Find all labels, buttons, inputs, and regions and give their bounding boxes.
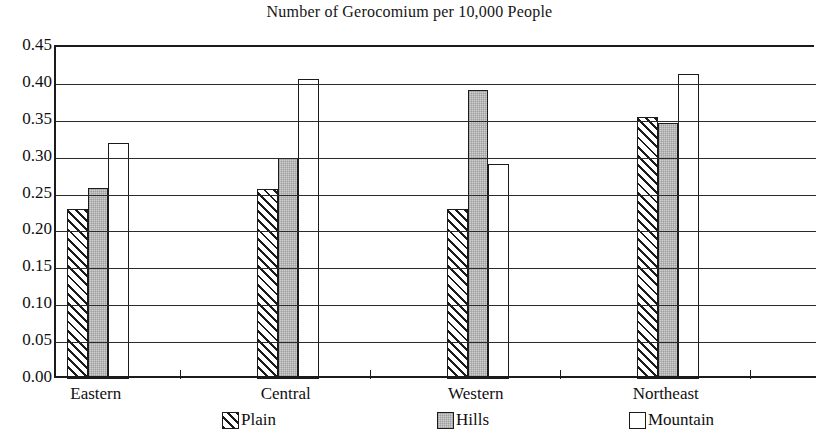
legend-entry-plain: Plain [222,409,276,431]
y-axis-tick-label: 0.05 [2,331,52,348]
bar-northeast-plain [637,117,658,379]
bar-western-mountain [488,164,509,379]
legend-swatch-mountain [629,412,646,429]
x-axis-category-label-western: Western [416,384,536,404]
gridline [56,195,816,196]
y-axis-tick-label: 0.20 [2,220,52,237]
bar-chart-figure: Number of Gerocomium per 10,000 People 0… [0,0,819,437]
x-axis-category-label-northeast: Northeast [606,384,726,404]
legend-entry-hills: Hills [437,409,489,431]
bars-layer [56,47,816,379]
x-axis-category-label-eastern: Eastern [36,384,156,404]
y-axis-tick-label: 0.45 [2,36,52,53]
y-axis-tick-label: 0.25 [2,184,52,201]
legend-swatch-hills [437,412,454,429]
chart-legend: PlainHillsMountain [0,409,819,435]
gridline [56,268,816,269]
gridline [56,121,816,122]
y-axis-tick-label: 0.30 [2,147,52,164]
bar-eastern-mountain [108,143,129,379]
bar-northeast-hills [658,123,679,379]
legend-entry-mountain: Mountain [629,409,714,431]
bar-western-hills [468,90,489,379]
y-axis-tick-label: 0.10 [2,294,52,311]
y-axis-tick-label: 0.40 [2,73,52,90]
bar-eastern-plain [67,209,88,379]
gridline [56,305,816,306]
bar-central-mountain [298,79,319,379]
gridline [56,342,816,343]
bar-western-plain [447,209,468,379]
gridline [56,231,816,232]
legend-label-hills: Hills [456,409,489,431]
x-axis-category-label-central: Central [226,384,346,404]
y-axis-tick-labels: 0.450.400.350.300.250.200.150.100.050.00 [0,0,52,437]
gridline [56,84,816,85]
bar-eastern-hills [88,188,109,379]
x-axis-line [54,376,816,378]
gridline [56,158,816,159]
legend-label-mountain: Mountain [648,409,714,431]
bar-central-plain [257,189,278,379]
legend-label-plain: Plain [241,409,276,431]
chart-title: Number of Gerocomium per 10,000 People [0,3,819,21]
y-axis-tick-label: 0.35 [2,110,52,127]
y-axis-tick-label: 0.00 [2,368,52,385]
plot-area [54,45,814,377]
y-axis-tick-label: 0.15 [2,257,52,274]
legend-swatch-plain [222,412,239,429]
